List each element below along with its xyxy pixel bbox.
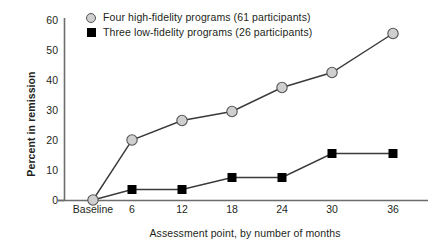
x-axis-title: Assessment point, by number of months [60,227,430,239]
legend-label-high-fidelity: Four high-fidelity programs (61 particip… [103,10,311,25]
legend-item-high-fidelity: Four high-fidelity programs (61 particip… [84,10,312,25]
data-point-high-12 [177,115,187,125]
data-point-high-18 [227,106,237,116]
legend-item-low-fidelity: Three low-fidelity programs (26 particip… [84,25,312,40]
data-point-low-36 [389,149,398,158]
x-tick-label-30: 30 [297,204,367,215]
circle-marker-icon [84,13,98,23]
data-point-high-30 [327,67,337,77]
series-line-high-fidelity [93,34,393,201]
chart-figure: Percent in remission 60 50 40 30 20 10 0 [0,0,433,250]
data-point-low-12 [178,185,187,194]
x-tick-label-36: 36 [358,204,428,215]
data-point-high-24 [277,82,287,92]
chart-legend: Four high-fidelity programs (61 particip… [84,10,312,40]
legend-label-low-fidelity: Three low-fidelity programs (26 particip… [103,25,312,40]
square-marker-icon [84,28,98,37]
data-point-low-6 [128,185,137,194]
data-point-high-6 [127,135,137,145]
series-line-low-fidelity [93,154,393,201]
data-point-low-18 [228,173,237,182]
data-point-low-30 [328,149,337,158]
data-point-high-36 [388,28,398,38]
data-point-low-24 [278,173,287,182]
